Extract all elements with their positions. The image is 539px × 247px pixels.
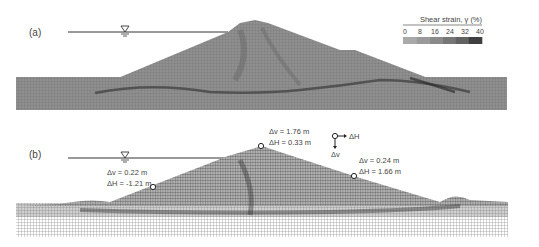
left-dv-label: Δv = 0.22 m [107, 168, 147, 177]
dam-mesh-b [16, 146, 508, 206]
displacement-axis-key: ΔH Δv [331, 132, 359, 159]
panel-a-label: (a) [29, 27, 41, 38]
water-table-icon [121, 26, 129, 36]
water-table-icon [121, 152, 129, 162]
panel-a: (a) Shear strain, γ (%) 0816243240 [16, 15, 507, 110]
crest-dv-label: Δv = 1.76 m [269, 127, 309, 136]
key-vertical-label: Δv [331, 150, 340, 159]
legend-tick-label: 16 [431, 28, 439, 35]
legend-color-swatch [403, 37, 416, 44]
legend-color-swatch [429, 37, 442, 44]
monitor-point-crest [258, 143, 263, 148]
monitor-point-right [351, 173, 356, 178]
right-dh-label: ΔH = 1.66 m [359, 167, 401, 176]
panel-b: (b) Δv = 0.22 m ΔH = -1.21 m Δv = 1.76 m… [16, 127, 508, 237]
legend-color-swatch [456, 37, 469, 44]
key-horizontal-label: ΔH [349, 132, 359, 141]
panel-b-label: (b) [29, 149, 41, 160]
legend-color-swatch [443, 37, 456, 44]
legend-tick-label: 32 [461, 28, 469, 35]
legend-tick-label: 40 [476, 28, 484, 35]
legend-color-swatch [469, 37, 482, 44]
left-dh-label: ΔH = -1.21 m [107, 179, 151, 188]
legend-tick-label: 24 [446, 28, 454, 35]
right-dv-label: Δv = 0.24 m [359, 156, 399, 165]
shear-strain-legend: Shear strain, γ (%) 0816243240 [403, 15, 484, 44]
legend-tick-label: 0 [403, 28, 407, 35]
key-point-icon [332, 133, 337, 138]
legend-title: Shear strain, γ (%) [420, 15, 483, 24]
figure: (a) Shear strain, γ (%) 0816243240 (b) [0, 0, 539, 247]
legend-color-swatch [416, 37, 429, 44]
legend-tick-label: 8 [418, 28, 422, 35]
crest-dh-label: ΔH = 0.33 m [269, 138, 311, 147]
